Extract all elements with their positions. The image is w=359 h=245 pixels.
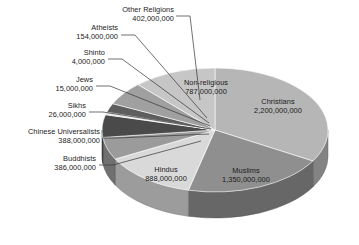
callout-shinto-value: 4,000,000 xyxy=(72,57,105,66)
callout-jews-value: 15,000,000 xyxy=(56,84,94,93)
callout-other-religions-label: Other Religions xyxy=(122,5,174,14)
inside-label-muslims-name: Muslims xyxy=(232,166,260,175)
callout-shinto-label: Shinto xyxy=(84,48,105,57)
callout-chinese-universalists-value: 388,000,000 xyxy=(58,136,100,145)
inside-label-non-religious-value: 787,000,000 xyxy=(185,87,227,96)
callout-atheists-value: 154,000,000 xyxy=(76,32,118,41)
inside-label-hindus-name: Hindus xyxy=(154,165,178,174)
inside-label-non-religious: Non-religious 787,000,000 xyxy=(184,78,228,96)
inside-label-christians-name: Christians xyxy=(261,97,295,106)
callout-chinese-universalists-label: Chinese Universalists xyxy=(28,127,100,136)
pie-chart-figure: Other Religions 402,000,000 Atheists 154… xyxy=(0,0,359,245)
callout-jews-label: Jews xyxy=(76,75,93,84)
callout-sikhs-value: 26,000,000 xyxy=(49,110,87,119)
pie-chart-svg: Other Religions 402,000,000 Atheists 154… xyxy=(0,0,359,245)
inside-label-hindus-value: 888,000,000 xyxy=(145,174,187,183)
callout-sikhs-label: Sikhs xyxy=(68,101,87,110)
inside-label-muslims-value: 1,350,000,000 xyxy=(222,175,270,184)
callout-atheists-label: Atheists xyxy=(91,23,118,32)
inside-label-christians-value: 2,200,000,000 xyxy=(254,106,302,115)
callout-buddhists-value: 386,000,000 xyxy=(54,163,96,172)
callout-buddhists-label: Buddhists xyxy=(63,154,96,163)
inside-label-non-religious-name: Non-religious xyxy=(184,78,228,87)
callout-other-religions-value: 402,000,000 xyxy=(132,14,174,23)
